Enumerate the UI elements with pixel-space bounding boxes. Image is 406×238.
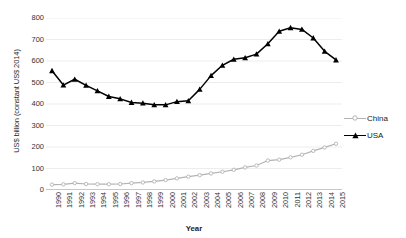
plot-area [46,18,342,190]
x-axis-tick-label: 2007 [248,192,256,208]
x-axis-tick-label: 1998 [146,192,154,208]
data-point-china [96,182,99,185]
data-point-china [73,181,76,184]
legend-label-china: China [367,114,388,123]
legend-item-usa[interactable]: USA [344,129,383,141]
x-axis-tick-label: 2012 [305,192,313,208]
legend-swatch-usa [344,130,366,140]
data-point-usa [83,82,89,87]
x-axis-tick-label: 2000 [169,192,177,208]
legend-swatch-china [344,113,366,123]
chart-container: US$ billion (constant US$ 2014) 01002003… [0,0,406,238]
y-axis-tick-label: 500 [22,79,44,87]
x-axis-tick-label: 2008 [259,192,267,208]
data-point-china [221,170,224,173]
gridlines [46,18,342,190]
x-axis-tick-label: 2003 [203,192,211,208]
data-point-china [187,175,190,178]
legend-item-china[interactable]: China [344,112,388,124]
data-point-china [232,168,235,171]
data-point-china [209,172,212,175]
plot-svg [46,18,342,190]
data-point-china [334,142,337,145]
x-axis-tick-label: 1994 [100,192,108,208]
data-point-china [153,180,156,183]
x-axis-tick-label: 2015 [339,192,347,208]
data-point-china [118,182,121,185]
y-axis-tick-label: 200 [22,143,44,151]
data-point-china [255,164,258,167]
data-point-china [278,158,281,161]
x-axis-tick-label: 2005 [225,192,233,208]
x-axis-tick-label: 2013 [316,192,324,208]
y-axis-tick-label: 400 [22,100,44,108]
x-axis-tick-label: 1996 [123,192,131,208]
x-axis-tick-label: 2011 [294,192,302,207]
data-point-china [164,178,167,181]
data-point-china [198,173,201,176]
x-axis-tick-label: 2010 [282,192,290,208]
x-axis-tick-label: 2014 [328,192,336,208]
data-point-china [312,149,315,152]
x-axis-tick-label: 2004 [214,192,222,208]
data-point-china [175,177,178,180]
triangle-marker-icon [352,132,359,139]
x-axis-tick-labels: 1990199119921993199419951996199719981999… [46,192,342,224]
data-point-china [130,181,133,184]
data-point-china [84,182,87,185]
x-axis-tick-label: 1999 [157,192,165,208]
chart-legend: China USA [344,110,404,146]
y-axis-tick-label: 700 [22,36,44,44]
x-axis-tick-label: 1991 [66,192,74,208]
circle-marker-icon [352,115,358,121]
y-axis-tick-label: 600 [22,57,44,65]
y-axis-tick-labels: 0100200300400500600700800 [22,0,44,238]
x-axis-tick-label: 1990 [55,192,63,208]
data-point-china [323,146,326,149]
y-axis-tick-label: 100 [22,165,44,173]
series-line-china [52,144,336,185]
x-axis-tick-label: 1993 [89,192,97,208]
data-series-layer [49,25,339,187]
legend-label-usa: USA [367,131,383,140]
data-point-china [107,182,110,185]
data-point-china [300,153,303,156]
x-axis-tick-label: 2006 [237,192,245,208]
data-point-usa [49,68,55,73]
data-point-china [289,156,292,159]
data-point-china [266,159,269,162]
x-axis-tick-label: 1992 [78,192,86,208]
data-point-china [62,183,65,186]
x-axis-tick-label: 2001 [180,192,188,208]
data-point-china [50,183,53,186]
x-axis-tick-label: 2002 [191,192,199,208]
y-axis-tick-label: 800 [22,14,44,22]
y-axis-tick-label: 300 [22,122,44,130]
data-point-china [141,181,144,184]
x-axis-tick-label: 1997 [135,192,143,208]
data-point-china [243,166,246,169]
x-axis-tick-label: 1995 [112,192,120,208]
data-point-usa [220,62,226,67]
x-axis-title: Year [46,224,342,233]
data-point-usa [72,76,78,81]
y-axis-tick-label: 0 [22,186,44,194]
x-axis-tick-label: 2009 [271,192,279,208]
